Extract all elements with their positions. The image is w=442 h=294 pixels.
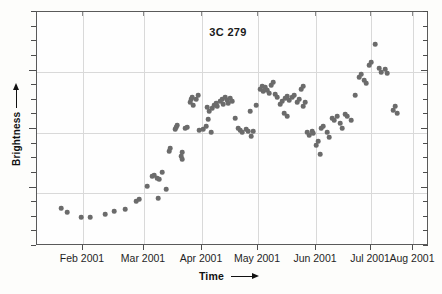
x-axis-tick-label: Jun 2001 xyxy=(293,252,336,264)
plot-area xyxy=(36,11,428,245)
data-point xyxy=(292,93,297,98)
data-point xyxy=(325,130,330,135)
gridline-horizontal-1 xyxy=(37,133,427,134)
data-point xyxy=(246,129,251,134)
x-axis-tick-top xyxy=(82,12,83,16)
gridline-horizontal-2 xyxy=(37,193,427,194)
x-axis-tick-top xyxy=(257,12,258,16)
y-axis-tick xyxy=(31,40,36,41)
figure-container: 3C 279 Brightness Time Feb 2001Mar 2001A… xyxy=(0,0,442,294)
data-point xyxy=(335,114,340,119)
x-axis-tick-label: Feb 2001 xyxy=(60,252,104,264)
y-axis-tick-right xyxy=(423,26,428,27)
data-point xyxy=(204,124,209,129)
data-point xyxy=(103,212,108,217)
data-point xyxy=(248,109,253,114)
data-point xyxy=(156,196,161,201)
y-axis-tick xyxy=(31,99,36,100)
data-point xyxy=(303,100,308,105)
y-axis-tick xyxy=(29,187,36,188)
data-point xyxy=(137,197,142,202)
x-axis-tick-top xyxy=(201,12,202,16)
y-axis-tick xyxy=(31,157,36,158)
data-point xyxy=(327,135,332,140)
y-axis-tick-right xyxy=(423,143,428,144)
x-axis-label-text: Time xyxy=(199,270,224,282)
y-axis-tick xyxy=(31,245,36,246)
data-point xyxy=(215,104,220,109)
x-axis-tick-top xyxy=(370,12,371,16)
gridline-vertical-1 xyxy=(144,12,145,244)
data-point xyxy=(230,99,235,104)
y-axis-tick xyxy=(31,84,36,85)
y-axis-label: Brightness xyxy=(6,46,26,166)
data-point xyxy=(267,91,272,96)
data-point xyxy=(340,126,345,131)
x-axis-tick-label: Mar 2001 xyxy=(121,252,165,264)
data-point xyxy=(301,84,306,89)
data-point xyxy=(338,121,343,126)
data-point xyxy=(185,125,190,130)
data-point xyxy=(364,81,369,86)
gridline-vertical-5 xyxy=(371,12,372,244)
data-point xyxy=(168,146,173,151)
y-axis-tick xyxy=(31,230,36,231)
y-axis-tick-right xyxy=(421,187,428,188)
data-point xyxy=(145,184,150,189)
data-point xyxy=(285,114,290,119)
data-point xyxy=(157,177,162,182)
y-axis-tick xyxy=(29,128,36,129)
y-axis-tick xyxy=(31,172,36,173)
y-axis-tick-right xyxy=(423,113,428,114)
y-axis-tick-right xyxy=(421,128,428,129)
gridline-vertical-6 xyxy=(413,12,414,244)
data-point xyxy=(359,72,364,77)
x-axis-tick-top xyxy=(143,12,144,16)
x-axis-tick xyxy=(257,245,258,250)
data-point xyxy=(349,118,354,123)
data-point xyxy=(314,143,319,148)
y-axis-tick xyxy=(31,11,36,12)
data-point xyxy=(88,215,93,220)
data-point xyxy=(209,130,214,135)
data-point xyxy=(301,104,306,109)
y-axis-tick xyxy=(29,70,36,71)
arrow-up-icon xyxy=(12,82,20,108)
data-point xyxy=(191,103,196,108)
y-axis-tick-right xyxy=(423,172,428,173)
y-axis-tick-right xyxy=(423,84,428,85)
y-axis-label-text: Brightness xyxy=(11,112,22,166)
x-axis-label: Time xyxy=(0,270,442,282)
x-axis-tick-top xyxy=(315,12,316,16)
data-point xyxy=(311,131,316,136)
chart-title: 3C 279 xyxy=(0,26,442,38)
data-point xyxy=(196,93,201,98)
x-axis-tick xyxy=(370,245,371,250)
y-axis-tick xyxy=(31,216,36,217)
data-point xyxy=(79,215,84,220)
x-axis-tick-label: May 2001 xyxy=(234,252,280,264)
data-point xyxy=(180,157,185,162)
data-point xyxy=(59,206,64,211)
data-point xyxy=(194,97,199,102)
x-axis-tick-label: Aug 2001 xyxy=(390,252,435,264)
gridline-vertical-4 xyxy=(316,12,317,244)
data-point xyxy=(123,207,128,212)
gridline-vertical-0 xyxy=(83,12,84,244)
data-point xyxy=(254,103,259,108)
x-axis-tick xyxy=(201,245,202,250)
x-axis-tick-label: Apr 2001 xyxy=(180,252,223,264)
data-point xyxy=(393,104,398,109)
x-axis-tick-top xyxy=(412,12,413,16)
y-axis-tick-right xyxy=(423,201,428,202)
data-point xyxy=(332,118,337,123)
data-point xyxy=(112,209,117,214)
data-point xyxy=(395,111,400,116)
x-axis-tick-label: Jul 2001 xyxy=(350,252,390,264)
data-point xyxy=(385,71,390,76)
x-axis-tick xyxy=(143,245,144,250)
y-axis-tick xyxy=(31,113,36,114)
y-axis-tick xyxy=(31,26,36,27)
data-point xyxy=(271,80,276,85)
data-point xyxy=(221,102,226,107)
